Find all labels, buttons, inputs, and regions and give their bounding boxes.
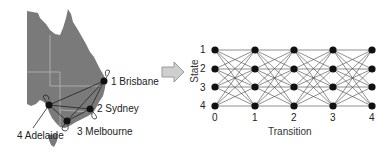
city-label-brisbane: 1 Brisbane xyxy=(111,77,159,87)
transition-tick: 3 xyxy=(330,113,336,123)
city-label-sydney: 2 Sydney xyxy=(97,104,139,114)
transition-tick: 0 xyxy=(212,113,218,123)
city-label-melbourne: 3 Melbourne xyxy=(77,127,133,137)
city-node-adelaide xyxy=(46,102,53,109)
city-node-melbourne xyxy=(64,118,71,125)
city-node-brisbane xyxy=(101,78,108,85)
trellis-nodes xyxy=(211,46,375,109)
transition-tick: 1 xyxy=(252,113,258,123)
right-arrow-icon xyxy=(160,60,186,84)
trellis-graph xyxy=(205,40,385,115)
city-label-adelaide: 4 Adelaide xyxy=(17,131,64,141)
y-axis-title: State xyxy=(190,59,200,82)
transition-tick: 4 xyxy=(369,113,375,123)
transition-tick: 2 xyxy=(291,113,297,123)
x-axis-title: Transition xyxy=(268,127,312,137)
city-node-sydney xyxy=(87,106,94,113)
